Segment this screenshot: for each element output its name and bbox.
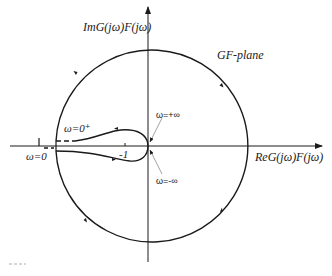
real-axis-label: ReG(jω)F(jω) [254,150,323,164]
imag-axis-label: ImG(jω)F(jω) [82,20,151,34]
direction-arrow-icon [220,83,224,88]
plane-label: GF-plane [217,48,264,62]
direction-arrow-icon [114,127,118,130]
direction-arrow-icon [220,208,223,213]
minus-one-label: -1 [119,148,128,160]
omega-plus-inf-label: ω=+∞ [156,110,180,120]
omega-zero-plus-label: ω=0⁺ [64,122,91,134]
leader-plus-inf [150,118,162,142]
direction-arrow-icon [74,71,78,75]
direction-arrow-icon [84,218,88,223]
leader-minus-inf [150,150,162,174]
omega-minus-inf-label: ω=-∞ [156,176,178,186]
omega-zero-label: ω=0 [26,150,47,162]
nyquist-diagram: ImG(jω)F(jω) ReG(jω)F(jω) GF-plane ω=0⁺ … [0,0,332,276]
